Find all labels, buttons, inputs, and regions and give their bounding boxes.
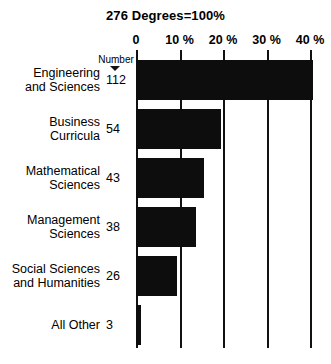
- category-row: Engineering and Sciences112: [0, 60, 136, 100]
- category-row: Social Sciences and Humanities26: [0, 256, 136, 296]
- x-axis-tick-labels: 010 %20 %30 %40 %: [0, 33, 331, 49]
- category-label: Engineering and Sciences: [25, 66, 106, 95]
- category-label: All Other: [51, 318, 106, 333]
- x-tick-label-30: 30 %: [252, 33, 281, 47]
- category-label: Business Curricula: [49, 115, 106, 144]
- category-labels: Engineering and Sciences112Business Curr…: [0, 60, 136, 348]
- x-tick-label-0: 0: [133, 33, 140, 47]
- bar: [136, 256, 177, 296]
- bar-row: [136, 60, 311, 100]
- category-count: 112: [106, 73, 136, 88]
- bar-row: [136, 207, 311, 247]
- category-row: Mathematical Sciences43: [0, 158, 136, 198]
- bar: [136, 158, 204, 198]
- bar-chart: 276 Degrees=100% 010 %20 %30 %40 % Numbe…: [0, 0, 331, 364]
- category-count: 26: [106, 269, 136, 284]
- bar: [136, 207, 196, 247]
- chart-title: 276 Degrees=100%: [0, 8, 331, 23]
- plot-area: [136, 60, 311, 348]
- x-tick-label-20: 20 %: [209, 33, 238, 47]
- category-row: Management Sciences38: [0, 207, 136, 247]
- bar-row: [136, 158, 311, 198]
- category-count: 43: [106, 171, 136, 186]
- x-tick-label-10: 10 %: [165, 33, 194, 47]
- category-row: All Other3: [0, 305, 136, 345]
- bar: [136, 305, 141, 345]
- category-count: 54: [106, 122, 136, 137]
- category-count: 3: [106, 318, 136, 333]
- bar: [136, 60, 313, 100]
- category-label: Mathematical Sciences: [26, 164, 106, 193]
- category-label: Social Sciences and Humanities: [12, 262, 106, 291]
- bar-row: [136, 109, 311, 149]
- bar-row: [136, 305, 311, 345]
- category-row: Business Curricula54: [0, 109, 136, 149]
- bar: [136, 109, 221, 149]
- category-count: 38: [106, 220, 136, 235]
- category-label: Management Sciences: [27, 213, 106, 242]
- bar-row: [136, 256, 311, 296]
- x-tick-label-40: 40 %: [296, 33, 325, 47]
